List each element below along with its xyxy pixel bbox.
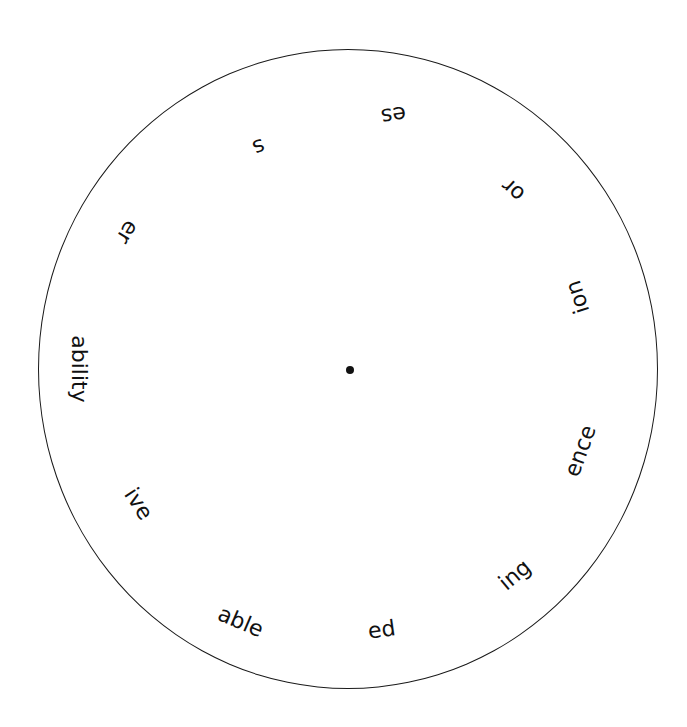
center-pivot-dot: [346, 366, 354, 374]
suffix-ed: ed: [367, 617, 397, 643]
suffix-es: es: [379, 102, 407, 127]
suffix-ability: ability: [67, 335, 89, 402]
